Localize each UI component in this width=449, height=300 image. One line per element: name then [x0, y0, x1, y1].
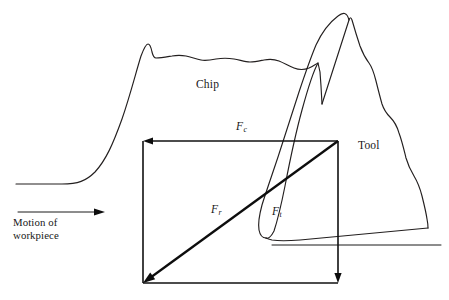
- force-subscript-resultant: r: [218, 208, 221, 217]
- force-label-cutting: Fc: [236, 120, 247, 134]
- motion-of-workpiece-label: Motion of workpiece: [13, 216, 59, 241]
- force-subscript-thrust: t: [279, 210, 281, 219]
- force-label-thrust: Ft: [272, 205, 281, 219]
- cutting-force-diagram: Chip Tool Motion of workpiece Fc Fr Ft: [0, 0, 449, 300]
- arrowhead-cutting-force: [143, 137, 153, 144]
- force-subscript-cutting: c: [243, 125, 246, 134]
- force-label-resultant: Fr: [211, 203, 221, 217]
- tool-label: Tool: [358, 139, 380, 153]
- force-vector-resultant: [150, 141, 338, 278]
- arrowhead-motion: [94, 209, 105, 216]
- chip-label: Chip: [196, 78, 219, 92]
- force-symbol-thrust: F: [272, 205, 279, 217]
- motion-label-line2: workpiece: [13, 229, 59, 242]
- force-symbol-resultant: F: [211, 203, 218, 215]
- diagram-canvas: [0, 0, 449, 300]
- force-symbol-cutting: F: [236, 120, 243, 132]
- tool-flank-face: [266, 228, 428, 241]
- motion-label-line1: Motion of: [13, 216, 59, 229]
- arrowhead-thrust-force: [334, 273, 341, 283]
